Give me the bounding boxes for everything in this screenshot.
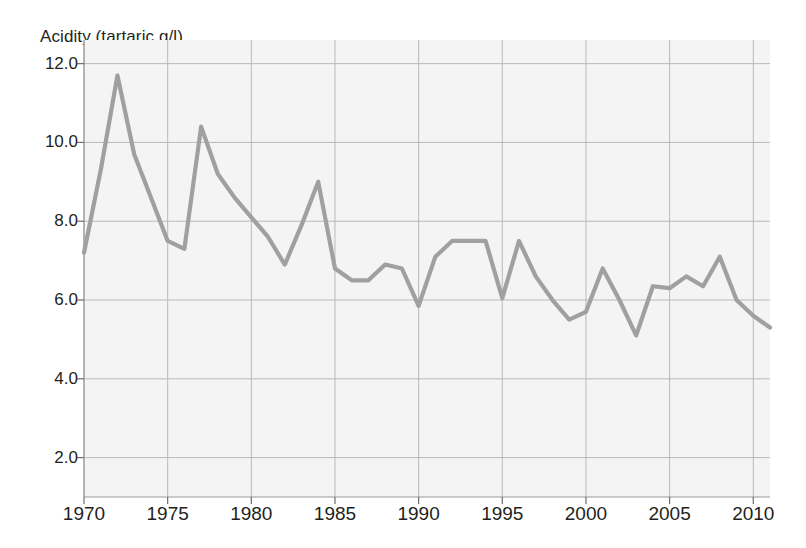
x-axis-tick-label: 1975 <box>147 503 189 525</box>
x-axis-tick-label: 2010 <box>732 503 774 525</box>
axis-lines <box>77 40 770 504</box>
plot-svg <box>0 0 806 548</box>
x-axis-tick-label: 2000 <box>565 503 607 525</box>
x-axis-tick-label: 1970 <box>63 503 105 525</box>
gridlines <box>84 40 770 497</box>
acidity-line-chart: Acidity (tartaric g/l) 2.04.06.08.010.01… <box>0 0 806 548</box>
x-axis-tick-label: 1990 <box>397 503 439 525</box>
x-axis-tick-label: 2005 <box>648 503 690 525</box>
x-axis-tick-label: 1980 <box>230 503 272 525</box>
x-axis-tick-label: 1985 <box>314 503 356 525</box>
acidity-line-path <box>84 75 770 335</box>
x-axis-tick-label: 1995 <box>481 503 523 525</box>
